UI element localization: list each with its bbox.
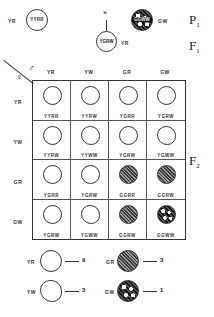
punnett-cell: GGRR	[109, 160, 147, 200]
punnett-cell: YYRR	[33, 81, 71, 121]
cross-line	[106, 20, 107, 31]
pea-round-green	[119, 205, 138, 224]
pea-round-yellow	[81, 165, 100, 184]
pea-wrinkled-yellow	[81, 126, 100, 145]
punnett-cell: YYRW	[33, 121, 71, 161]
parent-right-phenotype: GW	[158, 18, 168, 24]
cell-genotype: YGWW	[71, 233, 108, 238]
row-header: YR	[8, 99, 28, 105]
ratio-pea-round-yellow	[40, 250, 62, 272]
row-header: YW	[8, 139, 28, 145]
cell-genotype: YGRW	[147, 114, 185, 119]
f1-pea: YGRW	[96, 31, 117, 52]
cell-genotype: GGWW	[147, 233, 185, 238]
ratio-count: 1	[160, 287, 163, 293]
pea-wrinkled-green	[157, 205, 176, 224]
punnett-cell: YGRR	[33, 160, 71, 200]
female-symbol: ♀	[16, 72, 23, 82]
pea-round-yellow	[157, 86, 176, 105]
punnett-cell: YGWW	[71, 200, 109, 240]
cell-genotype: YGRW	[71, 193, 108, 198]
pea-round-yellow	[119, 86, 138, 105]
ratio-dash	[143, 291, 157, 292]
cell-genotype: GGRR	[109, 193, 146, 198]
row-header: GR	[8, 179, 28, 185]
ratio-phenotype: GW	[105, 289, 115, 295]
pea-round-yellow	[43, 205, 62, 224]
ratio-phenotype: YW	[27, 289, 36, 295]
parent-left-pea: YYRR	[26, 9, 48, 31]
column-header: GW	[146, 69, 184, 75]
cell-genotype: YYRW	[33, 153, 70, 158]
pea-wrinkled-yellow	[157, 126, 176, 145]
cell-genotype: GGRW	[147, 193, 185, 198]
punnett-cell: YGRW	[33, 200, 71, 240]
pea-round-yellow	[119, 126, 138, 145]
cell-genotype: YYWW	[71, 153, 108, 158]
punnett-cell: YGRW	[71, 160, 109, 200]
ratio-pea-wrinkled-yellow	[40, 280, 62, 302]
row-header: GW	[8, 219, 28, 225]
cell-genotype: YYRW	[71, 114, 108, 119]
cell-genotype: YGRW	[33, 233, 70, 238]
ratio-count: 3	[160, 257, 163, 263]
punnett-cell: GGWW	[147, 200, 185, 240]
ratio-phenotype: GR	[106, 259, 115, 265]
punnett-cell: YGRW	[147, 81, 185, 121]
ratio-count: 9	[82, 257, 85, 263]
ratio-pea-wrinkled-green	[117, 280, 139, 302]
parent-left-genotype: YYRR	[27, 17, 47, 22]
punnett-cell: GGRW	[147, 160, 185, 200]
cell-genotype: GGRW	[109, 233, 146, 238]
pea-wrinkled-yellow	[81, 205, 100, 224]
parent-right-pea: GGWW	[131, 9, 153, 31]
cell-genotype: YGWW	[147, 153, 185, 158]
column-header: YR	[32, 69, 70, 75]
punnett-cell: YGRR	[109, 81, 147, 121]
parent-left-phenotype: YR	[8, 18, 16, 24]
pea-round-green	[157, 165, 176, 184]
generation-f1-label: F1	[189, 38, 200, 55]
cell-genotype: YYRR	[33, 114, 70, 119]
ratio-dash	[65, 261, 79, 262]
cell-genotype: YGRR	[109, 114, 146, 119]
ratio-phenotype: YR	[27, 259, 35, 265]
punnett-cell: YGWW	[147, 121, 185, 161]
parent-right-genotype: GGWW	[132, 17, 152, 22]
ratio-dash	[65, 291, 79, 292]
ratio-count: 3	[82, 287, 85, 293]
pea-round-green	[119, 165, 138, 184]
punnett-cell: YGRW	[109, 121, 147, 161]
generation-f2-label: F2	[189, 153, 200, 170]
f1-phenotype: YR	[121, 40, 129, 46]
generation-p1-label: P1	[189, 12, 200, 29]
punnett-square: YYRR YYRW YGRR YGRW YYRW YYWW YGRW YGWW …	[32, 80, 186, 240]
cell-genotype: YGRR	[33, 193, 70, 198]
pea-round-yellow	[43, 165, 62, 184]
f1-genotype: YGRW	[97, 39, 116, 44]
cell-genotype: YGRW	[109, 153, 146, 158]
column-header: YW	[70, 69, 108, 75]
punnett-cell: YYRW	[71, 81, 109, 121]
ratio-pea-round-green	[117, 250, 139, 272]
cross-symbol: ×	[103, 9, 107, 16]
punnett-cell: GGRW	[109, 200, 147, 240]
pea-round-yellow	[81, 86, 100, 105]
column-header: GR	[108, 69, 146, 75]
pea-round-yellow	[43, 126, 62, 145]
pea-round-yellow	[43, 86, 62, 105]
punnett-cell: YYWW	[71, 121, 109, 161]
ratio-dash	[143, 261, 157, 262]
